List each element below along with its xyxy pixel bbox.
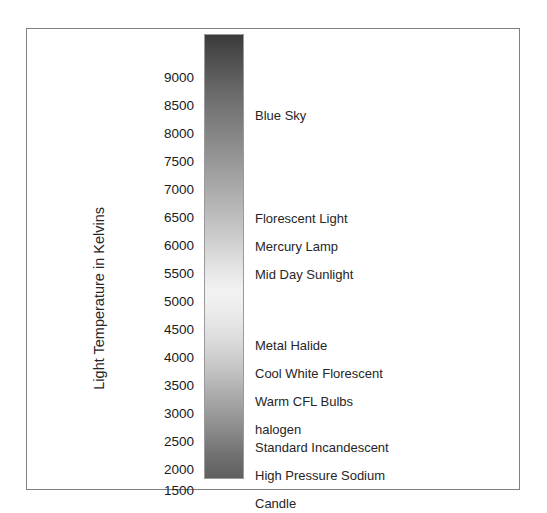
- y-axis-tick-labels: 9000850080007500700065006000550050004500…: [132, 29, 194, 489]
- y-axis-tick-2000: 2000: [134, 463, 194, 477]
- light-source-label: Metal Halide: [255, 339, 327, 353]
- y-axis-tick-5500: 5500: [134, 267, 194, 281]
- y-axis-tick-1500: 1500: [134, 484, 194, 498]
- light-source-label: Mercury Lamp: [255, 240, 338, 254]
- plot-area: Light Temperature in Kelvins 90008500800…: [27, 29, 519, 489]
- y-axis-tick-2500: 2500: [134, 435, 194, 449]
- y-axis-tick-3000: 3000: [134, 407, 194, 421]
- y-axis-title: Light Temperature in Kelvins: [89, 207, 109, 417]
- light-source-annotations: Blue SkyFlorescent LightMercury LampMid …: [255, 29, 505, 489]
- light-source-label: High Pressure Sodium: [255, 469, 385, 483]
- y-axis-title-text: Light Temperature in Kelvins: [89, 207, 109, 390]
- light-source-label: Cool White Florescent: [255, 367, 383, 381]
- light-source-label: halogen: [255, 423, 301, 437]
- light-source-label: Warm CFL Bulbs: [255, 395, 353, 409]
- figure-frame: Light Temperature in Kelvins 90008500800…: [26, 28, 520, 490]
- y-axis-tick-4000: 4000: [134, 351, 194, 365]
- y-axis-tick-9000: 9000: [134, 71, 194, 85]
- color-temperature-gradient-bar: [204, 34, 244, 479]
- y-axis-tick-7500: 7500: [134, 155, 194, 169]
- y-axis-tick-8000: 8000: [134, 127, 194, 141]
- y-axis-tick-3500: 3500: [134, 379, 194, 393]
- y-axis-tick-6500: 6500: [134, 211, 194, 225]
- y-axis-tick-8500: 8500: [134, 99, 194, 113]
- light-source-label: Candle: [255, 497, 296, 511]
- y-axis-tick-5000: 5000: [134, 295, 194, 309]
- y-axis-tick-7000: 7000: [134, 183, 194, 197]
- y-axis-tick-4500: 4500: [134, 323, 194, 337]
- light-source-label: Florescent Light: [255, 212, 348, 226]
- light-source-label: Blue Sky: [255, 109, 306, 123]
- light-source-label: Mid Day Sunlight: [255, 268, 353, 282]
- light-source-label: Standard Incandescent: [255, 441, 389, 455]
- y-axis-tick-6000: 6000: [134, 239, 194, 253]
